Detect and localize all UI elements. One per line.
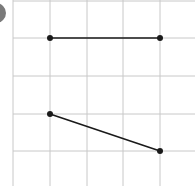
label-badge xyxy=(0,3,6,23)
grid-lines xyxy=(13,0,195,186)
endpoint-dot xyxy=(157,148,163,154)
endpoint-dot xyxy=(157,35,163,41)
grid-diagram xyxy=(0,0,195,186)
endpoint-dot xyxy=(47,35,53,41)
slanted-segment xyxy=(50,114,160,151)
endpoint-dot xyxy=(47,111,53,117)
line-segments xyxy=(50,38,160,151)
segment-endpoints xyxy=(47,35,163,154)
